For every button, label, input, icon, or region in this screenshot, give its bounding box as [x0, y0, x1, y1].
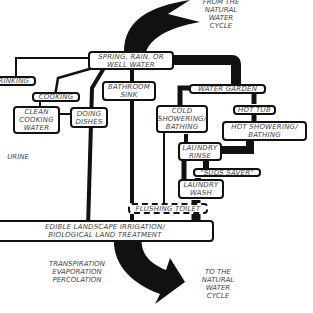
- source-label: FROM THE NATURAL WATER CYCLE: [196, 0, 246, 30]
- node-water-garden: WATER GARDEN: [189, 84, 266, 94]
- loss-label: TRANSPIRATION EVAPORATION PERCOLATION: [42, 260, 112, 284]
- node-hot-showering: HOT SHOWERING/ BATHING: [222, 121, 307, 141]
- node-laundry-rinse: LAUNDRY RINSE: [178, 142, 222, 161]
- urine-label: URINE: [6, 153, 30, 161]
- node-drinking: DRINKING: [0, 76, 36, 86]
- node-flushing-toilet: FLUSHING TOILET: [128, 203, 208, 214]
- node-doing-dishes: DOING DISHES: [70, 107, 108, 128]
- node-clean-cooking-water: CLEAN COOKING WATER: [13, 106, 60, 134]
- node-irrigation: EDIBLE LANDSCAPE IRRIGATION/ BIOLOGICAL …: [0, 220, 214, 242]
- node-cooking: COOKING: [32, 92, 80, 102]
- outgoing-arrow-icon: [114, 236, 185, 304]
- node-laundry-wash: LAUNDRY WASH: [178, 179, 224, 199]
- node-hot-tub: HOT TUB: [233, 105, 276, 115]
- node-supply: SPRING, RAIN, OR WELL WATER: [88, 51, 174, 70]
- node-suds-saver: "SUDS SAVER": [193, 168, 261, 177]
- sink-label: TO THE NATURAL WATER CYCLE: [198, 268, 238, 300]
- node-cold-showering: COLD SHOWERING/ BATHING: [156, 105, 208, 133]
- node-bathroom-sink: BATHROOM SINK: [102, 81, 156, 101]
- incoming-arrow-icon: [124, 0, 200, 52]
- water-reuse-diagram: FROM THE NATURAL WATER CYCLE SPRING, RAI…: [0, 0, 313, 313]
